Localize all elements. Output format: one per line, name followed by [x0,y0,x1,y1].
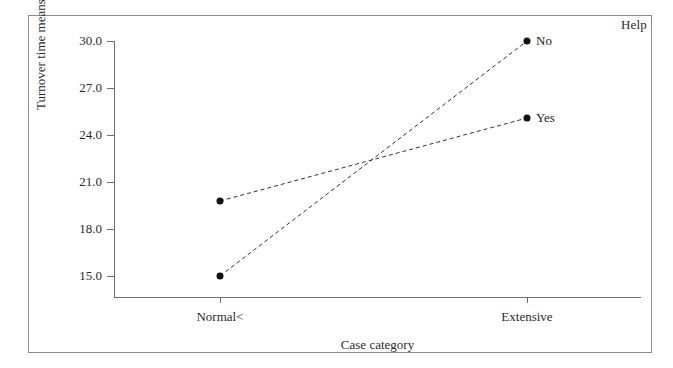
y-tick-label-18: 18.0 [79,220,102,237]
y-tick-18: 18.0 [107,229,114,230]
y-tick-label-15: 15.0 [79,267,102,284]
y-tick-label-21: 21.0 [79,173,102,190]
plot-area: 30.0 27.0 24.0 21.0 18.0 15.0 Normal< Ex… [114,26,641,298]
series-line-yes [220,118,527,201]
chart-page: Help Turnover time means 30.0 27.0 24.0 … [0,0,673,368]
y-tick-15: 15.0 [107,276,114,277]
data-point-yes-extensive[interactable] [524,115,531,122]
y-tick-label-24: 24.0 [79,126,102,143]
data-point-no-extensive[interactable] [524,38,531,45]
y-tick-label-27: 27.0 [79,79,102,96]
y-axis-title: Turnover time means [33,0,49,110]
series-label-yes: Yes [536,110,555,126]
x-tick-label-normal: Normal< [196,309,243,325]
y-tick-30: 30.0 [107,41,114,42]
series-line-no [220,41,527,276]
series-label-no: No [536,33,552,49]
data-point-no-normal[interactable] [217,273,224,280]
y-tick-label-30: 30.0 [79,32,102,49]
series-lines [114,26,641,298]
y-tick-24: 24.0 [107,135,114,136]
x-axis-title: Case category [114,337,641,353]
y-tick-27: 27.0 [107,88,114,89]
x-tick-label-extensive: Extensive [501,309,552,325]
y-tick-21: 21.0 [107,182,114,183]
data-point-yes-normal[interactable] [217,198,224,205]
